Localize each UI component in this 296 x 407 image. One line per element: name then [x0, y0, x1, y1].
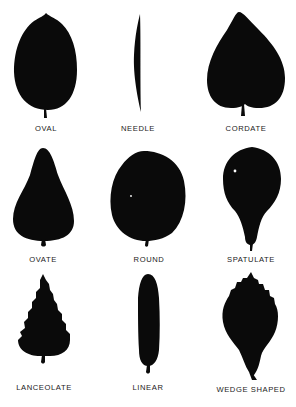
needle-leaf-icon — [100, 0, 200, 122]
leaf-label-spatulate: SPATULATE — [201, 255, 296, 264]
leaf-label-lanceolate: LANCEOLATE — [0, 383, 94, 392]
linear-leaf-icon — [100, 270, 200, 378]
round-leaf-icon — [100, 135, 200, 255]
wedge-shaped-leaf-icon — [195, 270, 296, 382]
leaf-label-cordate: CORDATE — [196, 124, 296, 133]
leaf-label-round: ROUND — [99, 255, 199, 264]
ovate-leaf-icon — [0, 135, 100, 255]
cordate-leaf-icon — [195, 0, 296, 122]
leaf-label-wedge-shaped: WEDGE SHAPED — [201, 385, 296, 394]
leaf-label-ovate: OVATE — [0, 255, 93, 264]
lanceolate-leaf-icon — [0, 270, 100, 378]
leaf-label-linear: LINEAR — [98, 383, 198, 392]
spatulate-leaf-icon — [195, 135, 296, 255]
leaf-label-needle: NEEDLE — [88, 124, 188, 133]
leaf-label-oval: OVAL — [0, 124, 96, 133]
oval-leaf-icon — [0, 0, 100, 122]
